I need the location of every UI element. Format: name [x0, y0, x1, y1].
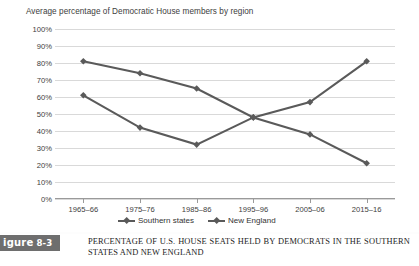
chart-legend: Southern statesNew England [118, 216, 276, 225]
x-axis-tick-label: 1965–66 [69, 205, 99, 214]
legend-marker-icon [208, 217, 225, 225]
figure-container: Average percentage of Democratic House m… [0, 0, 419, 266]
chart-block: Average percentage of Democratic House m… [0, 0, 419, 232]
y-axis-tick-label: 20% [37, 161, 52, 170]
figure-caption: PERCENTAGE OF U.S. HOUSE SEATS HELD BY D… [88, 236, 410, 259]
x-axis-tick [253, 199, 254, 203]
legend-label: Southern states [138, 216, 194, 225]
plot-area: 1965–661975–761985–861995–962005–062015–… [55, 29, 395, 199]
y-axis-tick-label: 80% [37, 59, 52, 68]
y-axis-tick-label: 10% [37, 178, 52, 187]
x-axis-tick-label: 1985–86 [182, 205, 212, 214]
data-point-marker [193, 141, 200, 148]
series-line-0 [83, 61, 366, 163]
x-axis-tick [310, 199, 311, 203]
figure-tag: igure8-3 [0, 235, 60, 251]
x-axis-tick-label: 2015–16 [352, 205, 382, 214]
legend-item[interactable]: Southern states [118, 216, 194, 225]
x-axis-tick [140, 199, 141, 203]
y-axis-labels: 100%90%80%70%60%50%40%30%20%10%0% [18, 29, 52, 199]
y-axis-tick-label: 50% [37, 110, 52, 119]
y-axis-tick-label: 40% [37, 127, 52, 136]
y-axis-tick-label: 0% [41, 195, 52, 204]
x-axis-tick [83, 199, 84, 203]
x-axis-tick [367, 199, 368, 203]
caption-row: igure8-3 PERCENTAGE OF U.S. HOUSE SEATS … [0, 234, 419, 266]
y-axis-tick-label: 90% [37, 42, 52, 51]
x-axis-tick-label: 1995–96 [239, 205, 269, 214]
legend-label: New England [228, 216, 276, 225]
figure-tag-number: 8-3 [36, 238, 52, 248]
data-point-marker [137, 70, 144, 77]
gridline [55, 199, 395, 200]
y-axis-tick-label: 100% [33, 25, 52, 34]
y-axis-tick-label: 60% [37, 93, 52, 102]
y-axis-tick-label: 70% [37, 76, 52, 85]
x-axis-tick-label: 1975–76 [125, 205, 155, 214]
data-point-marker [80, 58, 87, 65]
legend-item[interactable]: New England [208, 216, 276, 225]
x-axis-tick [197, 199, 198, 203]
chart-title: Average percentage of Democratic House m… [26, 7, 253, 16]
legend-marker-icon [118, 217, 135, 225]
x-axis-tick-label: 2005–06 [295, 205, 325, 214]
series-svg [55, 29, 395, 199]
figure-tag-word: igure [3, 237, 33, 248]
y-axis-tick-label: 30% [37, 144, 52, 153]
